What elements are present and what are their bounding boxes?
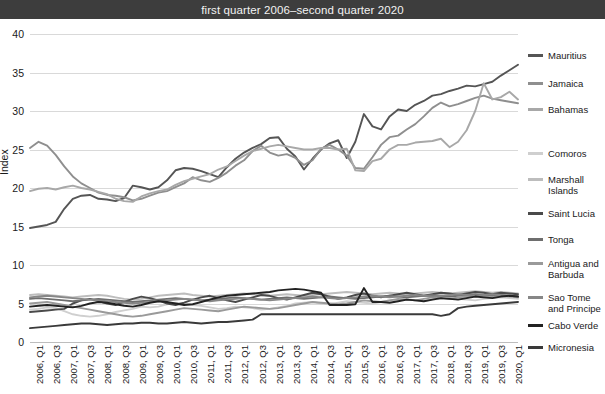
x-tick-label: 2009, Q1	[137, 345, 148, 384]
series-lines	[30, 34, 518, 342]
y-tick-label: 20	[4, 182, 24, 194]
legend-swatch-icon	[528, 178, 543, 181]
x-tick-label: 2008, Q1	[102, 345, 113, 384]
legend-label: Saint Lucia	[548, 208, 595, 219]
x-tick-label: 2017, Q3	[428, 345, 439, 384]
y-tick-label: 5	[4, 298, 24, 310]
legend-swatch-icon	[528, 262, 543, 265]
legend-swatch-icon	[528, 108, 543, 111]
x-tick-label: 2011, Q3	[222, 345, 233, 383]
x-tick-label: 2019, Q1	[479, 345, 490, 384]
legend-swatch-icon	[528, 82, 543, 85]
x-tick-label: 2018, Q1	[445, 345, 456, 384]
x-tick-label: 2007, Q3	[85, 345, 96, 384]
legend-label: Cabo Verde	[548, 320, 598, 331]
x-tick-label: 2014, Q1	[308, 345, 319, 384]
legend-swatch-icon	[528, 346, 543, 349]
y-axis-ticks: 0510152025303540	[0, 34, 26, 342]
x-tick-label: 2016, Q1	[376, 345, 387, 384]
x-tick-label: 2006, Q3	[51, 345, 62, 384]
x-tick-label: 2018, Q3	[462, 345, 473, 384]
y-tick-label: 10	[4, 259, 24, 271]
y-tick-label: 35	[4, 67, 24, 79]
legend-label: Mauritius	[548, 50, 587, 61]
legend-item-jamaica[interactable]: Jamaica	[528, 78, 583, 89]
gridline-0	[30, 342, 518, 343]
legend-label: Marshall Islands	[548, 174, 584, 196]
legend-swatch-icon	[528, 324, 543, 327]
legend-item-comoros[interactable]: Comoros	[528, 148, 587, 159]
x-tick-label: 2013, Q3	[291, 345, 302, 384]
legend-label: Bahamas	[548, 104, 588, 115]
chart-root: first quarter 2006–second quarter 2020 I…	[0, 0, 605, 394]
legend-item-mauritius[interactable]: Mauritius	[528, 50, 587, 61]
legend-label: Sao Tome and Principe	[548, 292, 601, 314]
legend-item-antigua-and-barbuda[interactable]: Antigua and Barbuda	[528, 258, 599, 280]
series-line	[30, 83, 518, 202]
x-tick-label: 2019, Q3	[496, 345, 507, 384]
legend-label: Comoros	[548, 148, 587, 159]
legend-swatch-icon	[528, 296, 543, 299]
x-tick-label: 2012, Q1	[239, 345, 250, 384]
legend-label: Antigua and Barbuda	[548, 258, 599, 280]
x-tick-label: 2006, Q1	[34, 345, 45, 384]
x-tick-label: 2009, Q3	[154, 345, 165, 384]
legend-item-cabo-verde[interactable]: Cabo Verde	[528, 320, 598, 331]
x-tick-label: 2016, Q3	[394, 345, 405, 384]
legend-item-sao-tome-and-principe[interactable]: Sao Tome and Principe	[528, 292, 601, 314]
legend-swatch-icon	[528, 152, 543, 155]
legend-swatch-icon	[528, 212, 543, 215]
x-tick-label: 2010, Q3	[188, 345, 199, 384]
legend-item-saint-lucia[interactable]: Saint Lucia	[528, 208, 595, 219]
x-tick-label: 2010, Q1	[171, 345, 182, 384]
x-tick-label: 2012, Q3	[257, 345, 268, 384]
x-axis-ticks: 2006, Q12006, Q32007, Q12007, Q32008, Q1…	[30, 345, 518, 394]
legend-swatch-icon	[528, 54, 543, 57]
x-tick-label: 2013, Q1	[274, 345, 285, 384]
legend-swatch-icon	[528, 238, 543, 241]
x-tick-label: 2015, Q1	[342, 345, 353, 384]
x-tick-label: 2014, Q3	[325, 345, 336, 384]
y-tick-label: 0	[4, 336, 24, 348]
chart-title: first quarter 2006–second quarter 2020	[0, 0, 605, 19]
series-line	[30, 96, 518, 201]
plot-area	[30, 34, 518, 342]
y-tick-label: 15	[4, 221, 24, 233]
y-tick-label: 25	[4, 144, 24, 156]
legend-label: Micronesia	[548, 342, 594, 353]
legend-item-marshall-islands[interactable]: Marshall Islands	[528, 174, 584, 196]
x-tick-label: 2011, Q1	[205, 345, 216, 383]
x-tick-label: 2017, Q1	[411, 345, 422, 384]
legend-item-bahamas[interactable]: Bahamas	[528, 104, 588, 115]
legend-item-tonga[interactable]: Tonga	[528, 234, 574, 245]
chart-legend: MauritiusJamaicaBahamasComorosMarshall I…	[528, 40, 605, 350]
y-tick-label: 40	[4, 28, 24, 40]
x-tick-label: 2015, Q3	[359, 345, 370, 384]
chart-title-bar: first quarter 2006–second quarter 2020	[0, 0, 605, 19]
x-tick-label: 2020, Q1	[513, 345, 524, 384]
legend-item-micronesia[interactable]: Micronesia	[528, 342, 594, 353]
legend-label: Tonga	[548, 234, 574, 245]
x-tick-label: 2007, Q1	[68, 345, 79, 384]
x-tick-label: 2008, Q3	[120, 345, 131, 384]
y-tick-label: 30	[4, 105, 24, 117]
legend-label: Jamaica	[548, 78, 583, 89]
